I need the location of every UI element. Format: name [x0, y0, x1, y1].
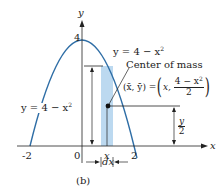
figure-caption: (b) [76, 176, 90, 186]
x-axis-arrow-icon [201, 144, 208, 149]
height-arrow-down-icon [90, 140, 94, 145]
x-axis-label: x [210, 141, 216, 151]
center-of-mass-label: Center of mass [126, 60, 203, 70]
frac-numerator-exponent: 2 [199, 75, 203, 82]
x-tick-2: 2 [131, 151, 137, 161]
frac-denominator: 2 [186, 88, 192, 97]
half-height-arrow-down-icon [172, 140, 176, 145]
com-coords-fraction: 4 − x2 2 [174, 77, 204, 97]
half-height-denominator: 2 [179, 127, 185, 136]
com-coords-lhs: (x̄, ȳ) = [123, 83, 156, 92]
curve-equation-exponent: 2 [160, 45, 164, 52]
strip-height-exponent: 2 [68, 101, 72, 108]
center-of-mass-coords: (x̄, ȳ) = ( x, 4 − x2 2 ) [123, 76, 210, 98]
strip-height-text: y = 4 − x [21, 102, 68, 113]
strip-height-label: y = 4 − x2 [20, 103, 73, 113]
half-height-label: y 2 [178, 117, 185, 137]
frac-numerator: 4 − x [175, 76, 199, 86]
dx-label: dx [102, 157, 114, 167]
left-paren: ( [157, 76, 162, 98]
curve-equation-text: y = 4 − x [113, 46, 160, 57]
x-tick-neg2: -2 [22, 151, 32, 161]
y-axis-arrow-icon [80, 20, 85, 27]
dx-left-arrow-icon [95, 160, 100, 164]
dx-right-arrow-icon [114, 160, 119, 164]
y-axis-label: y [78, 8, 84, 18]
center-of-mass-figure: y x 4 -2 0 2 x y = 4 − x2 Center of mass… [0, 0, 216, 196]
center-of-mass-dot [106, 104, 111, 109]
x-tick-0: 0 [74, 151, 80, 161]
half-height-arrow-up-icon [172, 107, 176, 112]
curve-equation-label: y = 4 − x2 [113, 47, 164, 57]
right-paren: ) [204, 76, 209, 98]
y-tick-4: 4 [74, 33, 80, 43]
height-arrow-up-icon [90, 67, 94, 72]
com-coords-x: x, [163, 83, 171, 92]
parabola-curve [30, 40, 137, 158]
